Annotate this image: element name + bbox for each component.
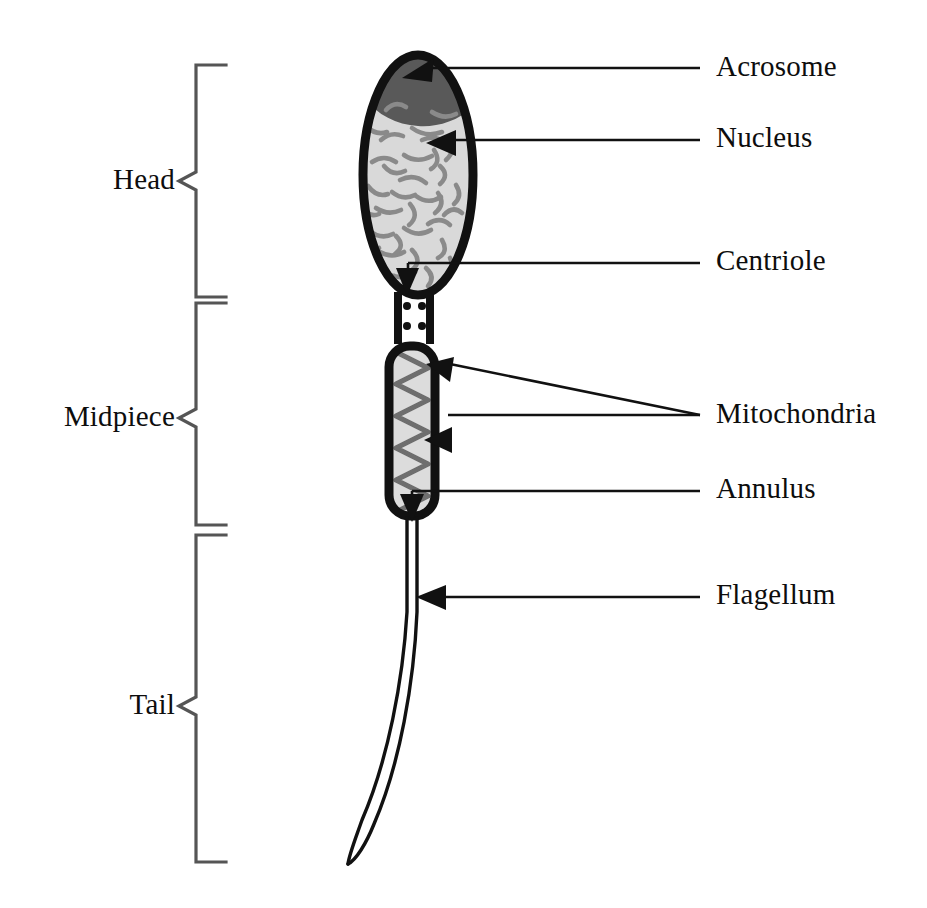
region-bracket-group	[179, 65, 226, 862]
arrowhead-flagellum	[416, 585, 446, 610]
flagellum-tail	[348, 518, 417, 864]
callout-label-annulus: Annulus	[716, 472, 816, 505]
bracket-tail	[179, 535, 226, 862]
bracket-midpiece	[179, 303, 226, 525]
neck-connecting-piece	[398, 292, 430, 344]
region-label-midpiece: Midpiece	[5, 400, 175, 433]
callout-label-nucleus: Nucleus	[716, 121, 812, 154]
centriole-dots	[403, 302, 426, 330]
callout-label-flagellum: Flagellum	[716, 578, 835, 611]
callout-label-mitochondria: Mitochondria	[716, 397, 876, 430]
sperm-head	[355, 45, 485, 295]
bracket-head	[179, 65, 226, 297]
callout-label-acrosome: Acrosome	[716, 50, 837, 83]
leader-mitochondria-upper	[450, 364, 700, 415]
callout-label-centriole: Centriole	[716, 244, 826, 277]
region-label-tail: Tail	[55, 688, 175, 721]
region-label-head: Head	[55, 163, 175, 196]
sperm-cell-diagram: Head Midpiece Tail Acrosome Nucleus Cent…	[0, 0, 927, 908]
